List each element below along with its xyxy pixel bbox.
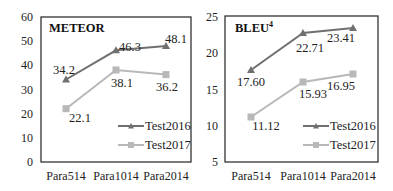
y-tick: 5 xyxy=(212,155,218,169)
y-tick: 60 xyxy=(21,10,33,24)
data-label: 46.3 xyxy=(119,40,141,54)
square-marker-icon xyxy=(300,79,307,86)
y-tick: 25 xyxy=(206,10,218,24)
bleu-title: BLEU4 xyxy=(235,20,273,35)
y-tick: 40 xyxy=(21,58,33,72)
data-label: 16.95 xyxy=(327,79,355,93)
x-category: Para514 xyxy=(231,169,270,183)
legend-label: Test2017 xyxy=(145,138,191,152)
data-label: 38.1 xyxy=(111,76,133,90)
bleu-title-superscript: 4 xyxy=(269,20,273,29)
square-marker-icon xyxy=(313,142,319,148)
y-tick: 50 xyxy=(21,34,33,48)
bleu-title-main: BLEU xyxy=(235,21,269,35)
data-label: 48.1 xyxy=(165,32,187,46)
square-marker-icon xyxy=(163,71,170,78)
legend-label: Test2016 xyxy=(330,119,376,133)
x-category: Para2014 xyxy=(330,169,375,183)
data-label: 17.60 xyxy=(237,75,265,89)
data-label: 23.41 xyxy=(327,31,355,45)
data-label: 15.93 xyxy=(299,87,327,101)
y-tick: 15 xyxy=(206,83,218,97)
y-tick: 30 xyxy=(21,83,33,97)
data-label: 36.2 xyxy=(156,80,178,94)
data-label: 11.12 xyxy=(252,119,280,133)
bleu-legend: Test2016 Test2017 xyxy=(303,119,376,152)
y-tick: 10 xyxy=(21,131,33,145)
y-tick: 10 xyxy=(206,119,218,133)
meteor-legend: Test2016 Test2017 xyxy=(118,119,191,152)
y-tick: 0 xyxy=(27,155,33,169)
square-marker-icon xyxy=(113,67,120,74)
bleu-y-ticks: 25 20 15 10 5 xyxy=(206,10,218,169)
square-marker-icon xyxy=(350,71,357,78)
data-label: 22.71 xyxy=(296,41,324,55)
x-category: Para514 xyxy=(46,169,85,183)
meteor-chart: 60 50 40 30 20 10 0 Para514 Para1014 Par… xyxy=(21,10,191,183)
meteor-title: METEOR xyxy=(49,21,106,35)
figure: 60 50 40 30 20 10 0 Para514 Para1014 Par… xyxy=(0,0,393,191)
bleu-chart: 25 20 15 10 5 Para514 Para1014 Para2014 … xyxy=(206,10,378,183)
legend-label: Test2017 xyxy=(330,138,376,152)
x-category: Para1014 xyxy=(280,169,325,183)
legend-label: Test2016 xyxy=(145,119,191,133)
data-label: 34.2 xyxy=(53,63,75,77)
x-category: Para2014 xyxy=(143,169,188,183)
x-category: Para1014 xyxy=(93,169,138,183)
y-tick: 20 xyxy=(21,107,33,121)
data-label: 22.1 xyxy=(69,111,91,125)
bleu-x-categories: Para514 Para1014 Para2014 xyxy=(231,169,375,183)
square-marker-icon xyxy=(128,142,134,148)
y-tick: 20 xyxy=(206,46,218,60)
meteor-x-categories: Para514 Para1014 Para2014 xyxy=(46,169,188,183)
meteor-y-ticks: 60 50 40 30 20 10 0 xyxy=(21,10,33,169)
